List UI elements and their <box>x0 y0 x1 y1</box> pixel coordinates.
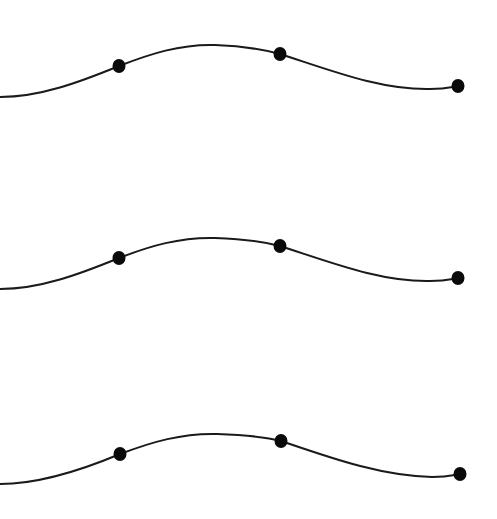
point-dot-3 <box>452 79 465 93</box>
point-dot-2 <box>274 47 287 61</box>
curve-1 <box>0 45 465 97</box>
curve-2 <box>0 238 465 289</box>
point-dot-2 <box>274 239 287 253</box>
drawing-canvas <box>0 0 497 519</box>
point-dot-1 <box>114 447 127 461</box>
point-dot-1 <box>113 59 126 73</box>
curve-line <box>0 434 460 484</box>
curve-line <box>0 238 458 289</box>
point-dot-3 <box>454 467 467 481</box>
curve-3 <box>0 434 467 484</box>
curves-drawing <box>0 0 497 519</box>
point-dot-1 <box>113 251 126 265</box>
point-dot-2 <box>275 434 288 448</box>
point-dot-3 <box>452 271 465 285</box>
curve-line <box>0 45 458 97</box>
